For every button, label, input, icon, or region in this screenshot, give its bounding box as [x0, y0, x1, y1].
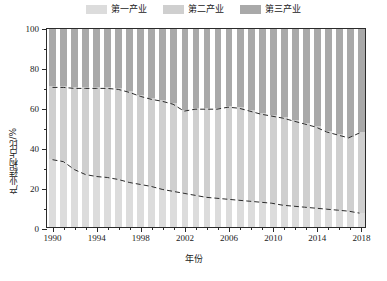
bar-segment-series-2 [281, 117, 288, 205]
bar-segment-series-1 [137, 184, 144, 227]
bar-segment-series-1 [325, 209, 332, 227]
bar-segment-series-2 [71, 87, 78, 169]
legend-item-2[interactable]: 第二产业 [163, 5, 224, 14]
bar-segment-series-3 [60, 29, 67, 86]
x-tick-major [53, 227, 54, 232]
x-tick-label: 2006 [220, 234, 238, 243]
x-tick-label: 2010 [264, 234, 282, 243]
bar-segment-series-3 [226, 29, 233, 106]
bar-segment-series-3 [170, 29, 177, 103]
bar-column [82, 29, 89, 227]
y-tick-major [42, 149, 47, 150]
legend-swatch-icon [163, 5, 184, 14]
x-tick-minor [207, 227, 208, 230]
x-tick-minor [306, 227, 307, 230]
y-tick-minor [44, 169, 47, 170]
bar-segment-series-2 [336, 134, 343, 210]
plot-inner [47, 29, 365, 227]
x-tick-minor [75, 227, 76, 230]
x-tick-minor [86, 227, 87, 230]
bar-segment-series-2 [325, 131, 332, 209]
bar-segment-series-3 [215, 29, 222, 108]
bar-segment-series-2 [347, 137, 354, 211]
bar-column [270, 29, 277, 227]
bar-column [215, 29, 222, 227]
x-tick-minor [163, 227, 164, 230]
bar-segment-series-1 [259, 202, 266, 227]
bar-segment-series-2 [93, 87, 100, 176]
bar-segment-series-1 [347, 211, 354, 227]
x-tick-minor [262, 227, 263, 230]
bar-segment-series-2 [303, 123, 310, 207]
bar-column [259, 29, 266, 227]
bar-segment-series-1 [115, 179, 122, 227]
bar-column [49, 29, 56, 227]
bar-segment-series-2 [204, 108, 211, 197]
x-tick-major [141, 227, 142, 232]
bar-column [314, 29, 321, 227]
bar-segment-series-1 [226, 199, 233, 227]
x-tick-label: 1998 [132, 234, 150, 243]
bar-column [336, 29, 343, 227]
bar-segment-series-1 [148, 186, 155, 227]
x-tick-label: 2002 [176, 234, 194, 243]
y-tick-minor [44, 209, 47, 210]
bar-segment-series-3 [325, 29, 332, 131]
y-tick-label: 40 [30, 145, 39, 154]
bar-segment-series-1 [93, 176, 100, 227]
bar-segment-series-3 [281, 29, 288, 117]
legend-item-3[interactable]: 第三产业 [240, 5, 301, 14]
bar-segment-series-2 [115, 88, 122, 179]
bar-column [204, 29, 211, 227]
y-tick-minor [44, 89, 47, 90]
x-tick-minor [350, 227, 351, 230]
bar-column [237, 29, 244, 227]
x-tick-label: 1990 [44, 234, 62, 243]
bar-segment-series-3 [336, 29, 343, 134]
x-tick-minor [284, 227, 285, 230]
legend-swatch-icon [86, 5, 107, 14]
bar-column [104, 29, 111, 227]
y-tick-major [42, 29, 47, 30]
x-tick-label: 1994 [88, 234, 106, 243]
bar-segment-series-1 [303, 207, 310, 227]
bar-column [347, 29, 354, 227]
legend-swatch-icon [240, 5, 261, 14]
y-tick-label: 0 [35, 225, 40, 234]
bar-segment-series-1 [292, 206, 299, 227]
y-tick-major [42, 69, 47, 70]
bar-segment-series-2 [248, 110, 255, 201]
bar-column [248, 29, 255, 227]
bar-column [303, 29, 310, 227]
bar-segment-series-1 [248, 201, 255, 227]
bar-segment-series-2 [148, 98, 155, 186]
bar-column [60, 29, 67, 227]
y-tick-label: 60 [30, 105, 39, 114]
bar-segment-series-1 [358, 213, 365, 227]
bar-column [71, 29, 78, 227]
bar-segment-series-3 [148, 29, 155, 98]
bar-segment-series-1 [193, 195, 200, 227]
bar-segment-series-3 [292, 29, 299, 120]
x-tick-minor [218, 227, 219, 230]
x-tick-label: 2014 [308, 234, 326, 243]
bar-column [193, 29, 200, 227]
x-tick-minor [119, 227, 120, 230]
bar-column [292, 29, 299, 227]
y-tick-minor [44, 49, 47, 50]
x-tick-minor [152, 227, 153, 230]
y-axis-title: 产业结构占比/% [6, 128, 19, 194]
bar-segment-series-3 [193, 29, 200, 108]
bar-segment-series-3 [104, 29, 111, 87]
bar-segment-series-2 [126, 91, 133, 182]
bar-column [126, 29, 133, 227]
bar-column [115, 29, 122, 227]
x-tick-major [97, 227, 98, 232]
x-tick-minor [339, 227, 340, 230]
x-tick-major [229, 227, 230, 232]
x-tick-minor [295, 227, 296, 230]
bar-segment-series-1 [281, 205, 288, 227]
x-tick-minor [196, 227, 197, 230]
bar-segment-series-1 [215, 198, 222, 227]
legend-item-1[interactable]: 第一产业 [86, 5, 147, 14]
